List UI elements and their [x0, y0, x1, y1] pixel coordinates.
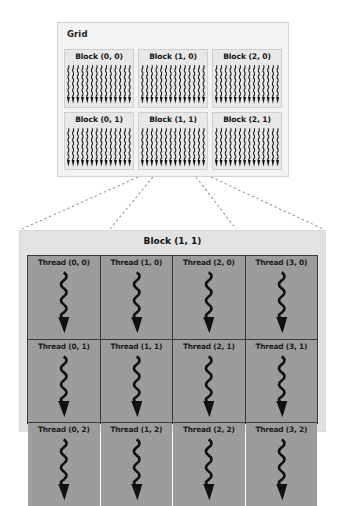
block-row: Block (0, 0) Block (1, 0) Block (2, 0)	[64, 49, 282, 108]
wavy-arrow-icon	[28, 267, 100, 339]
block-cell[interactable]: Block (2, 1)	[212, 112, 282, 171]
thread-bundle-icon	[65, 125, 133, 170]
thread-cell[interactable]: Thread (3, 2)	[246, 423, 318, 506]
thread-row: Thread (0, 2) Thread (1, 2) Thread (2, 2…	[28, 423, 317, 506]
thread-bundle-icon	[213, 125, 281, 170]
block-rows: Block (0, 0) Block (1, 0) Block (2, 0) B…	[64, 49, 282, 170]
wavy-arrow-icon	[101, 434, 173, 506]
thread-cell[interactable]: Thread (3, 1)	[246, 340, 318, 423]
thread-grid: Thread (0, 0) Thread (1, 0) Thread (2, 0…	[27, 255, 318, 424]
block-label: Block (1, 0)	[149, 52, 197, 62]
thread-cell[interactable]: Thread (0, 0)	[28, 256, 100, 339]
block-cell[interactable]: Block (0, 1)	[64, 112, 134, 171]
connector-left-inner	[110, 177, 153, 229]
wavy-arrow-icon	[246, 267, 318, 339]
wavy-arrow-icon	[173, 351, 245, 423]
block-label: Block (1, 1)	[149, 115, 197, 125]
wavy-arrow-icon	[246, 351, 318, 423]
wavy-arrow-icon	[246, 434, 318, 506]
thread-cell[interactable]: Thread (1, 0)	[101, 256, 173, 339]
block-label: Block (2, 0)	[223, 52, 271, 62]
thread-cell[interactable]: Thread (3, 0)	[246, 256, 318, 339]
thread-cell[interactable]: Thread (2, 1)	[173, 340, 245, 423]
connector-right-outer	[211, 177, 323, 229]
block-label: Block (0, 1)	[75, 115, 123, 125]
wavy-arrow-icon	[28, 351, 100, 423]
block-row: Block (0, 1) Block (1, 1) Block (2, 1)	[64, 112, 282, 171]
wavy-arrow-icon	[28, 434, 100, 506]
thread-label: Thread (3, 1)	[255, 342, 307, 351]
thread-label: Thread (0, 1)	[38, 342, 90, 351]
thread-cell[interactable]: Thread (0, 2)	[28, 423, 100, 506]
thread-label: Thread (2, 1)	[183, 342, 235, 351]
thread-cell[interactable]: Thread (1, 1)	[101, 340, 173, 423]
thread-label: Thread (3, 0)	[255, 258, 307, 267]
thread-row: Thread (0, 1) Thread (1, 1) Thread (2, 1…	[28, 340, 317, 423]
thread-label: Thread (2, 0)	[183, 258, 235, 267]
thread-cell[interactable]: Thread (2, 0)	[173, 256, 245, 339]
block-label: Block (0, 0)	[75, 52, 123, 62]
block-cell[interactable]: Block (1, 0)	[138, 49, 208, 108]
block-cell[interactable]: Block (2, 0)	[212, 49, 282, 108]
thread-label: Thread (1, 2)	[110, 425, 162, 434]
wavy-arrow-icon	[101, 351, 173, 423]
thread-bundle-icon	[139, 125, 207, 170]
grid-panel: Grid Block (0, 0) Block (1, 0) Block (2,…	[57, 22, 289, 177]
block-label: Block (2, 1)	[223, 115, 271, 125]
thread-row: Thread (0, 0) Thread (1, 0) Thread (2, 0…	[28, 256, 317, 339]
connector-left-outer	[22, 177, 138, 229]
block-cell[interactable]: Block (0, 0)	[64, 49, 134, 108]
wavy-arrow-icon	[101, 267, 173, 339]
thread-label: Thread (0, 0)	[38, 258, 90, 267]
block-detail-panel: Block (1, 1) Thread (0, 0) Thread (1, 0)…	[19, 230, 326, 432]
connector-right-inner	[196, 177, 236, 229]
thread-cell[interactable]: Thread (0, 1)	[28, 340, 100, 423]
thread-label: Thread (2, 2)	[183, 425, 235, 434]
thread-cell[interactable]: Thread (1, 2)	[101, 423, 173, 506]
thread-cell[interactable]: Thread (2, 2)	[173, 423, 245, 506]
thread-bundle-icon	[213, 62, 281, 107]
thread-label: Thread (3, 2)	[255, 425, 307, 434]
thread-bundle-icon	[139, 62, 207, 107]
thread-label: Thread (1, 1)	[110, 342, 162, 351]
grid-label: Grid	[67, 29, 88, 39]
wavy-arrow-icon	[173, 267, 245, 339]
block-cell-highlighted[interactable]: Block (1, 1)	[138, 112, 208, 171]
wavy-arrow-icon	[173, 434, 245, 506]
thread-bundle-icon	[65, 62, 133, 107]
thread-label: Thread (0, 2)	[38, 425, 90, 434]
thread-label: Thread (1, 0)	[110, 258, 162, 267]
block-detail-title: Block (1, 1)	[20, 236, 325, 246]
